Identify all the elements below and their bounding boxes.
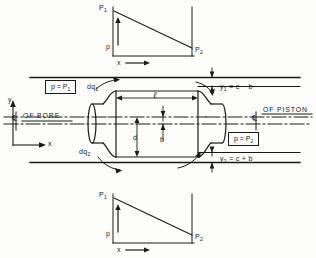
flow-arrow-dq1-left [96,77,120,89]
gap-top-label: y1 = c − b [220,83,253,90]
piston-centerline-label: OF PISTON [263,106,308,113]
global-y-axis-label: y [8,96,12,103]
bottom-pressure-plot-linework [113,194,194,253]
dimension-length-label: ℓ [153,91,157,100]
piston-centerline-symbol: ℄ [252,115,257,123]
bottom-plot-p1-label: P1 [99,191,107,198]
global-x-axis-label: x [48,140,52,147]
bore-centerline-symbol: ℄ [12,115,17,123]
flow-arrow-dq2-left [98,157,122,174]
bottom-plot-x-arrow-head [144,247,150,252]
top-plot-data-line [114,11,192,48]
top-plot-p-axis-label: p [106,43,110,50]
piston-fillet-top-right [198,91,211,104]
top-pressure-plot-linework [113,7,194,66]
bottom-plot-x-axis-label: x [117,246,121,253]
flow-label-dq2: dq2 [79,148,90,155]
figure-root: P1 p x P2 y x ℄ OF BORE ℄ OF PISTON p = … [0,0,316,258]
bottom-plot-p2-label: P2 [195,233,203,240]
dimension-d-label: d [133,134,137,141]
top-plot-x-axis-label: x [117,59,121,66]
top-plot-x-arrow-head [144,60,150,65]
bottom-plot-p-arrow-head [115,204,120,210]
piston-fillet-top-left [103,91,116,104]
gap-bottom-label: y2 = c + b [220,155,253,162]
top-plot-p-arrow-head [115,17,120,23]
top-plot-p2-label: P2 [195,46,203,53]
piston-fillet-bottom-left [103,143,116,157]
flow-label-dq1: dq1 [87,83,98,90]
dimension-b-label: b [160,136,164,143]
bottom-plot-data-line [114,198,192,235]
bore-centerline-label: OF BORE [23,112,60,119]
figure-linework [0,0,316,258]
dimension-b [161,106,166,140]
top-plot-p1-label: P1 [99,4,107,11]
pressure-right-box: p = P2 [228,132,259,146]
bottom-plot-p-axis-label: p [106,230,110,237]
pressure-left-box: p = P1 [45,80,76,94]
